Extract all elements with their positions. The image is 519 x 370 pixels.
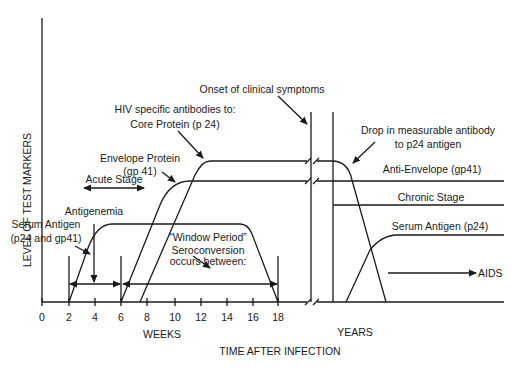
anti-envelope-label: Anti-Envelope (gp41): [383, 163, 482, 175]
onset-label: Onset of clinical symptoms: [200, 83, 325, 95]
svg-text:8: 8: [144, 311, 150, 323]
serum-antigen-p24-label: Serum Antigen (p24): [392, 220, 488, 232]
chronic-stage-label: Chronic Stage: [398, 191, 465, 203]
envelope-protein-label: Envelope Protein: [100, 152, 180, 164]
svg-text:14: 14: [221, 311, 233, 323]
core-protein-label: Core Protein (p 24): [130, 118, 219, 130]
p24-antibody-drop-curve: [317, 161, 386, 302]
occurs-between-label: occurs between:: [170, 255, 246, 267]
envelope-pointer: [162, 172, 175, 182]
serum-antigen-label: Serum Antigen: [12, 218, 81, 230]
serum-antigen-sublabel: (p24 and gp41): [10, 232, 81, 244]
years-label: YEARS: [337, 326, 373, 338]
svg-text:6: 6: [118, 311, 124, 323]
onset-pointer: [278, 96, 307, 124]
weeks-label: WEEKS: [143, 328, 181, 340]
aids-label: AIDS: [478, 267, 503, 279]
window-period-label: “Window Period”: [169, 231, 247, 243]
svg-text:16: 16: [247, 311, 259, 323]
svg-text:10: 10: [169, 311, 181, 323]
svg-text:0: 0: [39, 311, 45, 323]
x-tick-labels: 0 2 4 6 8 10 12 14 16 18: [39, 311, 284, 323]
hiv-test-markers-diagram: LEVEL OF TEST MARKERS 0 2 4 6 8 10 12 14…: [0, 0, 519, 370]
svg-text:12: 12: [195, 311, 207, 323]
x-axis-title: TIME AFTER INFECTION: [219, 345, 340, 357]
y-axis-label: LEVEL OF TEST MARKERS: [21, 133, 33, 267]
acute-stage-label: Acute Stage: [85, 173, 142, 185]
core-protein-pointer: [178, 131, 203, 158]
antigenemia-label: Antigenemia: [65, 205, 124, 217]
drop-pointer: [353, 142, 375, 163]
svg-text:4: 4: [92, 311, 98, 323]
drop-label: Drop in measurable antibody: [361, 124, 496, 136]
svg-text:18: 18: [272, 311, 284, 323]
svg-text:2: 2: [66, 311, 72, 323]
hiv-antibodies-label: HIV specific antibodies to:: [115, 103, 236, 115]
drop-sublabel: to p24 antigen: [395, 138, 462, 150]
